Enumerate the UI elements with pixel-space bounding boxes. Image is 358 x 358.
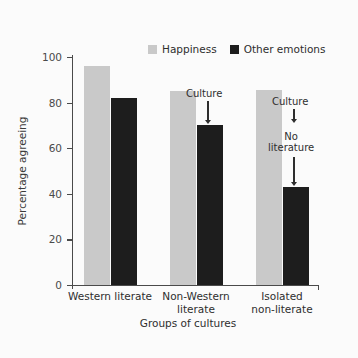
legend-swatch-happiness xyxy=(148,45,157,54)
y-axis-tick xyxy=(67,285,72,286)
bar-other-emotions-group-1 xyxy=(111,98,137,285)
annotation-no-literature-group3-label: No literature xyxy=(268,131,314,153)
x-axis-tick-label: Western literate xyxy=(68,290,152,303)
y-axis-tick-label: 0 xyxy=(55,280,62,291)
legend-label-other-emotions: Other emotions xyxy=(244,43,326,55)
x-axis-end-tick xyxy=(318,285,319,290)
legend-label-happiness: Happiness xyxy=(162,43,217,55)
y-axis-tick-label: 80 xyxy=(49,97,62,108)
chart-legend: Happiness Other emotions xyxy=(148,43,326,55)
y-axis-title: Percentage agreeing xyxy=(16,117,28,226)
legend-swatch-other-emotions xyxy=(230,45,239,54)
bar-happiness-group-1 xyxy=(84,66,110,285)
legend-item-happiness: Happiness xyxy=(148,43,217,55)
y-axis-tick-label: 20 xyxy=(49,234,62,245)
annotation-culture-group2-arrow-icon xyxy=(203,101,213,124)
bar-happiness-group-3 xyxy=(256,90,282,285)
bar-chart-figure: Happiness Other emotions 020406080100 Pe… xyxy=(0,0,358,358)
x-axis-tick-label: Non-Western literate xyxy=(162,290,229,316)
annotation-culture-group3-label: Culture xyxy=(272,96,308,107)
bar-other-emotions-group-2 xyxy=(197,125,223,285)
bar-other-emotions-group-3 xyxy=(283,187,309,285)
annotation-no-literature-group3-arrow-icon xyxy=(289,157,299,186)
y-axis-tick-label: 60 xyxy=(49,143,62,154)
annotation-culture-group3-arrow-icon xyxy=(289,109,299,123)
x-axis-title: Groups of cultures xyxy=(140,317,236,329)
legend-item-other-emotions: Other emotions xyxy=(230,43,326,55)
x-axis-tick-label: Isolated non-literate xyxy=(251,290,312,316)
y-axis-tick-label: 40 xyxy=(49,189,62,200)
bar-happiness-group-2 xyxy=(170,91,196,285)
annotation-culture-group2-label: Culture xyxy=(186,88,222,99)
y-axis-tick-label: 100 xyxy=(42,52,62,63)
